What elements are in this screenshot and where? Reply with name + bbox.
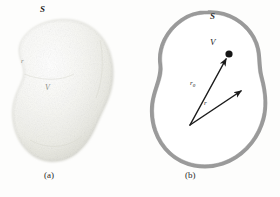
panel-b-label-volume: V: [210, 38, 216, 47]
panel-b-caption: (b): [185, 170, 196, 180]
panel-a: S r V (a): [0, 0, 140, 197]
field-point-dot: [225, 50, 232, 57]
panel-a-label-surface: S: [40, 5, 45, 14]
panel-b-graphic: [140, 0, 280, 197]
vector-source-subscript: 0: [193, 83, 196, 88]
blob-texture: [0, 0, 140, 197]
panel-b: S V r0 r (b): [140, 0, 280, 197]
panel-a-graphic: [0, 0, 140, 197]
panel-a-label-volume: V: [45, 84, 50, 92]
panel-a-label-radius: r: [21, 58, 24, 65]
panel-b-label-vector-source: r0: [190, 80, 195, 88]
figure-container: S r V (a): [0, 0, 280, 197]
panel-b-label-vector-field: r: [204, 100, 207, 107]
panel-b-label-surface: S: [210, 12, 215, 21]
panel-a-caption: (a): [44, 170, 54, 180]
